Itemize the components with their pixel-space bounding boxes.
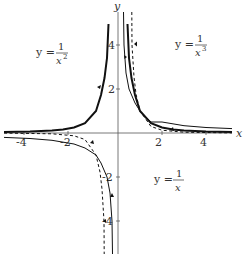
- label-inv-cube-exp: 3: [202, 45, 206, 53]
- x-tick-4: 4: [200, 136, 207, 149]
- arrow-icon: [134, 42, 137, 47]
- label-inv-den: x: [175, 182, 181, 193]
- label-inv-square-lhs: y =: [35, 46, 55, 59]
- curve-inv-square-left: [4, 24, 109, 132]
- curve-inv-cube-q1: [132, 12, 232, 133]
- arrow-icon: [90, 140, 94, 144]
- y-tick-2: 2: [108, 83, 115, 96]
- arrow-icon: [97, 85, 101, 89]
- label-inv: y = 1 x: [153, 168, 184, 193]
- y-tick-4: 4: [108, 39, 115, 52]
- label-inv-cube-lhs: y =: [174, 38, 194, 51]
- x-axis-label: x: [236, 127, 243, 140]
- y-axis-label: y: [113, 0, 121, 13]
- label-inv-num: 1: [176, 168, 182, 179]
- label-inv-cube-num: 1: [197, 33, 203, 44]
- arrow-icon: [124, 55, 127, 59]
- direction-arrows: [90, 42, 174, 224]
- label-inv-square-den: x: [56, 55, 62, 66]
- label-inv-square-num: 1: [58, 41, 64, 52]
- label-inv-square-exp: 2: [63, 53, 67, 61]
- label-inv-cube: y = 1 x 3: [174, 33, 207, 58]
- function-graph: x y -4 -2 2 4 4 2 -2 -4: [0, 0, 245, 257]
- x-tick-2: 2: [155, 136, 162, 149]
- label-inv-cube-den: x: [195, 47, 201, 58]
- label-inv-lhs: y =: [153, 173, 173, 186]
- label-inv-square: y = 1 x 2: [35, 41, 68, 66]
